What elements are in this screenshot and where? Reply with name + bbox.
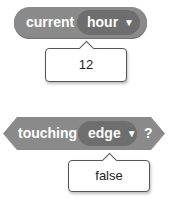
block-label-touching: touching xyxy=(18,125,77,141)
hour-dropdown[interactable]: hour▼ xyxy=(77,10,140,35)
caret-down-icon: ▼ xyxy=(124,17,134,28)
caret-down-icon: ▼ xyxy=(127,128,137,139)
question-mark-suffix: ? xyxy=(144,125,153,141)
block-label-current: current xyxy=(26,14,74,30)
dropdown-value: hour xyxy=(87,14,118,30)
touching-edge-boolean-block[interactable]: touching edge▼ ? xyxy=(3,117,165,150)
bubble-notch xyxy=(102,153,118,169)
edge-dropdown[interactable]: edge▼ xyxy=(78,121,137,146)
result-value: false xyxy=(95,168,122,183)
boolean-result-bubble: false xyxy=(68,160,150,192)
current-hour-reporter-block[interactable]: current hour▼ xyxy=(14,7,147,38)
reporter-result-bubble: 12 xyxy=(45,48,127,82)
dropdown-value: edge xyxy=(88,125,121,141)
bubble-notch xyxy=(79,41,95,57)
result-value: 12 xyxy=(79,57,93,72)
